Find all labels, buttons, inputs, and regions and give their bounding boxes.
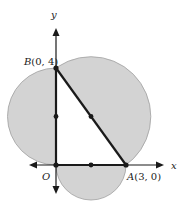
x-axis-label: x — [171, 160, 177, 171]
point-a-label: A(3, 0) — [126, 171, 161, 182]
point-b-label: B(0, 4) — [23, 56, 58, 67]
point-b-coords: (0, 4) — [31, 56, 58, 67]
point-a — [123, 162, 128, 167]
x-axis-arrow-right-icon — [156, 162, 164, 169]
diagram-canvas: y x O B(0, 4) A(3, 0) — [0, 0, 187, 211]
y-axis-arrow-up-icon — [53, 28, 60, 36]
y-axis-label: y — [50, 9, 57, 20]
point-origin — [53, 162, 58, 167]
point-b-name: B — [23, 56, 31, 67]
x-axis-arrow-left-icon — [29, 162, 37, 169]
midpoint-ab — [89, 114, 94, 119]
midpoint-oa — [89, 163, 94, 168]
y-axis-arrow-down-icon — [53, 186, 60, 194]
point-a-coords: (3, 0) — [134, 171, 161, 182]
midpoint-ob — [54, 114, 59, 119]
origin-label: O — [42, 171, 50, 182]
point-a-name: A — [126, 171, 134, 182]
